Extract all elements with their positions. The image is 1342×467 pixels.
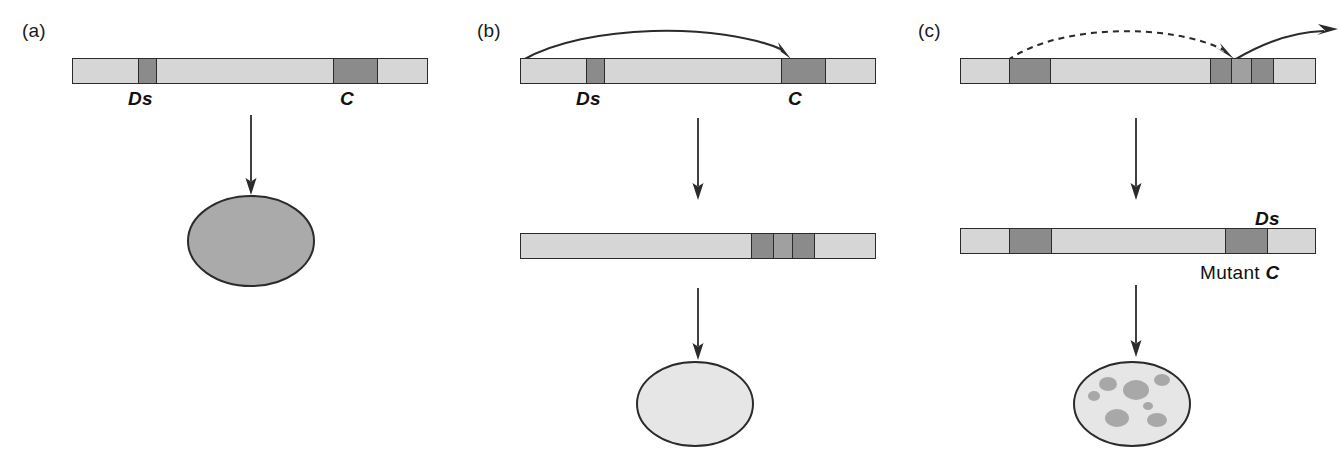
segment-light — [961, 59, 1009, 83]
chromosome-a-top — [72, 58, 428, 84]
kernel-spot — [1105, 409, 1129, 427]
segment-light — [377, 59, 427, 83]
segment-light — [521, 59, 586, 83]
gene-label-c: C — [788, 88, 802, 110]
arrow-down-b-1 — [687, 118, 709, 200]
arrow-down-b-2 — [687, 288, 709, 360]
gene-label-c: C — [340, 88, 354, 110]
segment-c-right — [1251, 59, 1273, 83]
segment-c — [781, 59, 826, 83]
segment-ds-inserted — [773, 234, 793, 258]
segment-light — [1267, 229, 1315, 253]
figure-ac-ds-transposition: (a) Ds C (b) — [0, 0, 1342, 467]
kernel-spot — [1143, 402, 1153, 410]
arrow-curved-transpose-b — [515, 26, 815, 62]
chromosome-b-top — [520, 58, 876, 84]
chromosome-c-bottom — [960, 228, 1316, 254]
segment-ds — [586, 59, 604, 83]
segment-light — [73, 59, 138, 83]
segment-ac — [1009, 59, 1051, 83]
segment-c-left — [751, 234, 773, 258]
kernel-spot — [1154, 374, 1170, 386]
panel-b: (b) Ds C Ds — [455, 0, 900, 467]
panel-label-b: (b) — [477, 20, 501, 42]
panel-c: (c) Ac Ds — [900, 0, 1342, 467]
arrow-curved-dashed-activate-c — [1000, 26, 1250, 62]
segment-light — [1051, 229, 1226, 253]
kernel-pigmented — [185, 192, 317, 290]
segment-light — [961, 229, 1009, 253]
gene-label-ds: Ds — [576, 88, 601, 110]
kernel-spot — [1147, 413, 1167, 427]
segment-light — [521, 234, 751, 258]
kernel-spot — [1123, 380, 1149, 400]
arrow-down-c-1 — [1125, 118, 1147, 200]
chromosome-b-bottom — [520, 233, 876, 259]
segment-ac — [1009, 229, 1051, 253]
arrow-curved-excision-c — [1232, 26, 1342, 62]
segment-c-right — [792, 234, 814, 258]
segment-light — [604, 59, 781, 83]
arrow-down-a — [240, 115, 262, 195]
segment-c — [333, 59, 378, 83]
segment-light — [1273, 59, 1315, 83]
arrow-down-c-2 — [1125, 285, 1147, 357]
panel-label-a: (a) — [22, 20, 46, 42]
segment-c — [1225, 229, 1267, 253]
chromosome-c-top — [960, 58, 1316, 84]
kernel-colorless — [633, 358, 757, 454]
segment-light — [814, 234, 875, 258]
gene-label-ds: Ds — [128, 88, 153, 110]
kernel-spotted — [1070, 358, 1194, 454]
segment-light — [1050, 59, 1209, 83]
panel-label-c: (c) — [918, 20, 941, 42]
segment-ds — [138, 59, 156, 83]
segment-c-left — [1210, 59, 1232, 83]
panel-a: (a) Ds C — [0, 0, 455, 467]
kernel-spot — [1099, 377, 1117, 391]
segment-light — [825, 59, 875, 83]
segment-light — [156, 59, 333, 83]
segment-ds-inserted — [1231, 59, 1251, 83]
kernel-spot — [1088, 391, 1100, 401]
